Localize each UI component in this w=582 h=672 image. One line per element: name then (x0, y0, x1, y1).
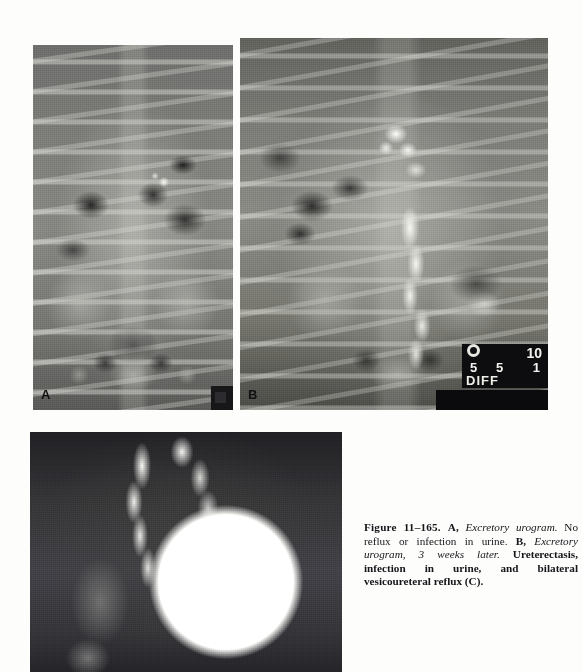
caption-panel-a-italic: Excretory urogram. (466, 521, 558, 533)
scale-marker-word: DIFF (466, 373, 499, 388)
caption-panel-a-letter: A, (448, 521, 459, 533)
figure-page: A 10 5 5 1 DIFF B Figure 11–165.A, Excre… (0, 0, 582, 672)
scale-marker-dot (470, 347, 477, 354)
radiographic-scale-marker: 10 5 5 1 DIFF (462, 344, 548, 388)
radiograph-panel-c (30, 432, 342, 672)
film-grain-overlay-c (30, 432, 342, 672)
film-edge-black-bar (436, 390, 548, 410)
figure-number: Figure 11–165. (364, 521, 441, 533)
panel-label-a: A (41, 388, 51, 401)
film-grain-overlay-a (33, 45, 233, 410)
caption-panel-b-letter: B, (516, 535, 526, 547)
film-corner-marker-a-inner (215, 392, 226, 403)
radiograph-panel-b: 10 5 5 1 DIFF B (240, 38, 548, 410)
radiograph-panel-a: A (33, 45, 233, 410)
scale-tick-10: 10 (526, 346, 542, 360)
scale-tick-1: 1 (533, 361, 540, 374)
panel-label-b: B (248, 388, 258, 401)
figure-caption: Figure 11–165.A, Excretory urogram. No r… (364, 521, 578, 589)
